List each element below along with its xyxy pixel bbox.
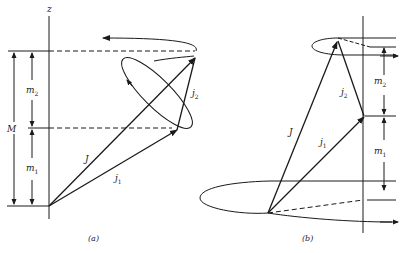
j2-label-b: j2 bbox=[339, 87, 348, 99]
m1-label: m1 bbox=[26, 163, 38, 175]
J-precession-arc-front bbox=[154, 56, 194, 61]
J-label-b: J bbox=[287, 127, 294, 137]
j1-vector-b bbox=[268, 117, 364, 213]
J-label: J bbox=[83, 154, 90, 164]
bottom-ellipse-dashed bbox=[268, 200, 363, 213]
j1-label-b: j1 bbox=[318, 137, 327, 149]
m1-label-b: m1 bbox=[374, 146, 386, 158]
panel-b-caption: (b) bbox=[302, 234, 313, 243]
m2-label: m2 bbox=[26, 85, 39, 97]
bottom-ellipse-upper bbox=[200, 181, 396, 222]
top-ellipse-dashed bbox=[338, 38, 370, 47]
J-vector-b bbox=[268, 42, 337, 213]
j2-label: j2 bbox=[190, 88, 199, 100]
panel-a bbox=[7, 16, 201, 219]
panel-b bbox=[200, 16, 398, 233]
M-label: M bbox=[6, 124, 17, 134]
j1-label: j1 bbox=[113, 173, 122, 185]
J-precession-arc bbox=[103, 38, 196, 51]
panel-a-caption: (a) bbox=[88, 234, 99, 243]
angular-momentum-coupling-diagram: z M m2 m1 J j1 j2 (a) m2 m1 J j1 bbox=[0, 0, 408, 253]
z-axis-label: z bbox=[46, 4, 52, 14]
j2-vector-b bbox=[338, 41, 364, 116]
j2-precession-ellipse bbox=[113, 49, 201, 137]
m2-label-b: m2 bbox=[374, 76, 387, 88]
